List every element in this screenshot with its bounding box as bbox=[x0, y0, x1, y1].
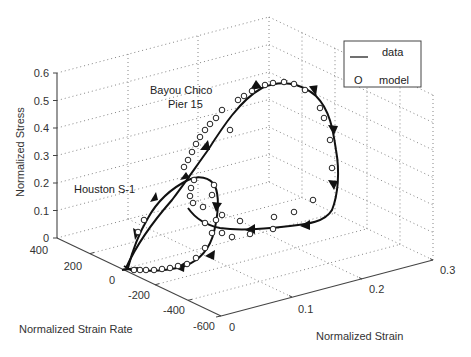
chart-3d: 0 0.1 0.2 0.3 0.4 0.5 0.6 400 200 0 -200… bbox=[0, 0, 471, 357]
svg-text:0: 0 bbox=[229, 321, 235, 333]
legend: data O model bbox=[344, 41, 421, 87]
series-model-markers bbox=[131, 79, 335, 273]
y-axis-label: Normalized Strain Rate bbox=[19, 323, 133, 335]
x-axis-label: Normalized Strain bbox=[316, 330, 403, 342]
z-tick-labels: 0 0.1 0.2 0.3 0.4 0.5 0.6 bbox=[34, 67, 49, 244]
svg-text:0.3: 0.3 bbox=[34, 150, 49, 162]
x-tick-labels: 0 0.1 0.2 0.3 bbox=[229, 264, 455, 333]
legend-label-model: model bbox=[379, 74, 409, 86]
svg-text:200: 200 bbox=[64, 260, 82, 272]
svg-text:400: 400 bbox=[30, 244, 48, 256]
svg-text:0: 0 bbox=[43, 232, 49, 244]
svg-text:0: 0 bbox=[109, 274, 115, 286]
svg-text:-600: -600 bbox=[193, 320, 215, 332]
y-tick-labels: 400 200 0 -200 -400 -600 bbox=[30, 244, 215, 332]
svg-text:0.4: 0.4 bbox=[34, 122, 49, 134]
annotation-pier-15: Pier 15 bbox=[168, 98, 203, 110]
svg-text:0.2: 0.2 bbox=[34, 177, 49, 189]
x-axis-line bbox=[221, 260, 433, 316]
svg-text:0.1: 0.1 bbox=[298, 303, 313, 315]
annotation-houston: Houston S-1 bbox=[74, 183, 135, 195]
svg-text:0.1: 0.1 bbox=[34, 205, 49, 217]
legend-circle-swatch: O bbox=[354, 74, 363, 86]
annotation-bayou-chico: Bayou Chico bbox=[150, 84, 212, 96]
svg-text:-200: -200 bbox=[128, 289, 150, 301]
svg-text:0.3: 0.3 bbox=[440, 264, 455, 276]
svg-text:0.5: 0.5 bbox=[34, 95, 49, 107]
svg-text:0.2: 0.2 bbox=[369, 283, 384, 295]
svg-text:-400: -400 bbox=[163, 304, 185, 316]
svg-text:0.6: 0.6 bbox=[34, 67, 49, 79]
legend-label-data: data bbox=[382, 46, 404, 58]
z-axis-label: Normalized Stress bbox=[14, 107, 26, 197]
y-axis-line bbox=[57, 238, 221, 316]
